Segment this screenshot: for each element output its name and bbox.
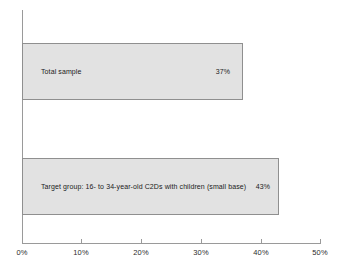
x-axis-tick-label-3: 30% <box>193 248 209 257</box>
bar-label: Target group: 16- to 34-year-old C2Ds wi… <box>41 183 246 190</box>
horizontal-bar-chart: 0% 10% 20% 30% 40% 50% Total sample 37% … <box>0 0 344 271</box>
x-axis-tick-2 <box>141 239 142 243</box>
bar-total-sample: Total sample 37% <box>22 43 243 100</box>
x-axis-tick-label-5: 50% <box>312 248 328 257</box>
bar-label: Total sample <box>41 68 82 75</box>
bar-value-label: 37% <box>216 68 230 75</box>
x-axis-tick-label-0: 0% <box>16 248 27 257</box>
x-axis-tick-3 <box>201 239 202 243</box>
x-axis-tick-4 <box>261 239 262 243</box>
bar-content: Total sample 37% <box>23 44 242 99</box>
x-axis-line <box>22 243 321 244</box>
bar-content: Target group: 16- to 34-year-old C2Ds wi… <box>23 159 278 214</box>
x-axis-tick-5 <box>320 239 321 243</box>
x-axis-tick-1 <box>81 239 82 243</box>
bar-target-group: Target group: 16- to 34-year-old C2Ds wi… <box>22 158 279 215</box>
x-axis-tick-label-4: 40% <box>253 248 269 257</box>
bar-value-label: 43% <box>256 183 270 190</box>
x-axis-tick-0 <box>22 239 23 243</box>
x-axis-tick-label-2: 20% <box>133 248 149 257</box>
x-axis-tick-label-1: 10% <box>73 248 89 257</box>
